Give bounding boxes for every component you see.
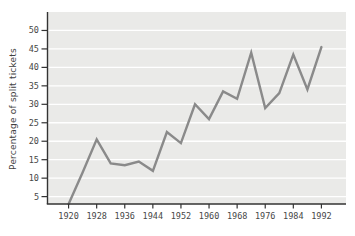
x-tick-label: 1920	[58, 211, 78, 221]
y-tick-label: 50	[29, 25, 39, 35]
x-tick-label: 1960	[199, 211, 219, 221]
y-tick-label: 35	[29, 81, 39, 91]
x-tick-label: 1976	[255, 211, 275, 221]
y-tick-label: 45	[29, 44, 39, 54]
y-tick-label: 5	[34, 192, 39, 202]
y-tick-label: 15	[29, 155, 39, 165]
x-tick-label: 1952	[171, 211, 191, 221]
x-tick-label: 1928	[86, 211, 106, 221]
y-tick-label: 40	[29, 62, 39, 72]
line-chart: 5101520253035404550192019281936194419521…	[0, 0, 355, 236]
y-tick-label: 30	[29, 99, 39, 109]
x-tick-label: 1984	[283, 211, 303, 221]
x-tick-label: 1992	[311, 211, 331, 221]
y-tick-label: 25	[29, 118, 39, 128]
y-tick-label: 10	[29, 173, 39, 183]
x-tick-label: 1944	[143, 211, 163, 221]
chart-figure: Percentage of split tickets 510152025303…	[0, 0, 355, 236]
y-tick-label: 20	[29, 136, 39, 146]
x-tick-label: 1936	[115, 211, 135, 221]
x-tick-label: 1968	[227, 211, 247, 221]
plot-area	[48, 12, 347, 204]
